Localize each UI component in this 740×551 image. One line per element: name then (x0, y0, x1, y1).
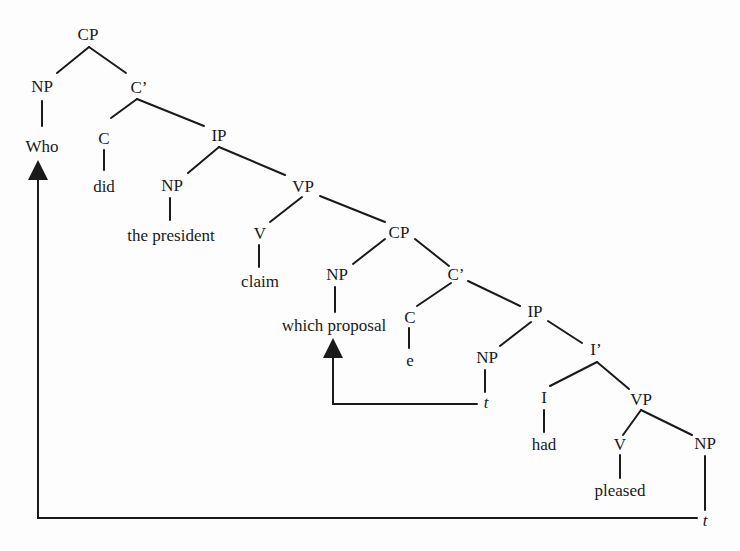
node-cp: CP (78, 26, 99, 44)
node-v: V (254, 225, 266, 243)
leaf-claim: claim (241, 273, 279, 291)
tree-lines (0, 0, 740, 551)
leaf-trace: t (703, 512, 708, 530)
node-ip: IP (527, 303, 542, 321)
leaf-e: e (406, 352, 414, 370)
node-cp: CP (389, 224, 410, 242)
node-vp: VP (630, 391, 652, 409)
leaf-who: Who (25, 138, 58, 156)
node-c-bar: C’ (448, 266, 465, 284)
node-v: V (614, 436, 626, 454)
leaf-which-proposal: which proposal (282, 317, 386, 335)
node-np: NP (161, 177, 183, 195)
node-c: C (98, 130, 109, 148)
node-c: C (404, 309, 415, 327)
leaf-pleased: pleased (595, 482, 646, 500)
node-np: NP (476, 349, 498, 367)
node-ip: IP (211, 127, 226, 145)
leaf-the-president: the president (127, 227, 214, 245)
node-i-bar: I’ (590, 341, 601, 359)
leaf-trace: t (484, 394, 489, 412)
node-np: NP (694, 435, 716, 453)
node-np: NP (326, 266, 348, 284)
node-c-bar: C’ (131, 79, 148, 97)
node-vp: VP (292, 178, 314, 196)
node-np: NP (31, 78, 53, 96)
node-i: I (541, 389, 547, 407)
leaf-had: had (532, 436, 557, 454)
leaf-did: did (93, 178, 115, 196)
